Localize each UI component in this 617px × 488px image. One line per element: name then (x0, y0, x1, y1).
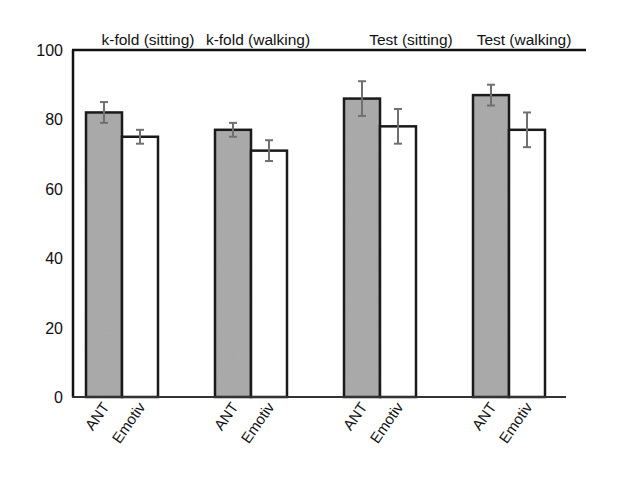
y-tick-label: 60 (45, 181, 63, 198)
bar-texture (475, 97, 508, 396)
plot-area (86, 81, 545, 397)
bar-emotiv (380, 126, 416, 397)
y-tick-label: 0 (54, 389, 63, 406)
y-tick-label: 20 (45, 320, 63, 337)
bar-label-ant: ANT (339, 399, 370, 433)
bar-texture (346, 100, 379, 395)
bar-emotiv (122, 137, 158, 397)
bar-label-emotiv: Emotiv (108, 399, 149, 447)
y-tick-label: 100 (36, 42, 63, 59)
group-title: Test (walking) (477, 31, 572, 48)
bar-emotiv (251, 151, 287, 397)
bar-label-emotiv: Emotiv (366, 399, 407, 447)
x-axis-labels: ANTEmotivANTEmotivANTEmotivANTEmotiv (81, 399, 535, 447)
bar-label-ant: ANT (81, 399, 112, 433)
group-title: Test (sitting) (369, 31, 453, 48)
group-title: k-fold (walking) (206, 31, 310, 48)
bar-emotiv (509, 130, 545, 397)
y-tick-label: 40 (45, 250, 63, 267)
bar-label-ant: ANT (468, 399, 499, 433)
bar-label-ant: ANT (210, 399, 241, 433)
bar-label-emotiv: Emotiv (495, 399, 536, 447)
y-tick-label: 80 (45, 111, 63, 128)
bar-chart: k-fold (sitting)k-fold (walking)Test (si… (0, 0, 617, 488)
bar-label-emotiv: Emotiv (237, 399, 278, 447)
bar-texture (217, 131, 250, 395)
group-title: k-fold (sitting) (101, 31, 194, 48)
group-titles: k-fold (sitting)k-fold (walking)Test (si… (101, 31, 571, 48)
bar-texture (88, 114, 121, 396)
